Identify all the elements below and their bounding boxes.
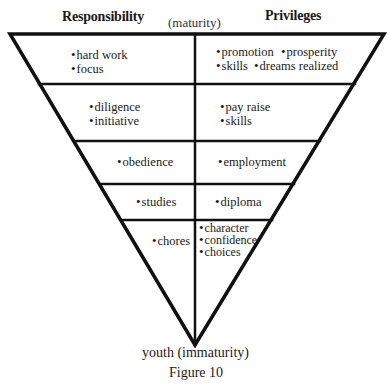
privileges-header: Privileges xyxy=(265,9,321,23)
privilege-item: pay raise xyxy=(220,100,270,114)
responsibility-item: obedience xyxy=(117,155,173,169)
responsibility-item: initiative xyxy=(89,114,139,128)
privilege-item: skills xyxy=(220,114,252,128)
responsibility-item: chores xyxy=(152,234,190,248)
privilege-item: promotion xyxy=(216,45,274,59)
figure-caption: Figure 10 xyxy=(169,366,223,380)
privilege-item: dreams realized xyxy=(254,59,338,73)
triangle-outline xyxy=(10,34,384,345)
privilege-item: skills xyxy=(216,59,248,73)
responsibility-header: Responsibility xyxy=(62,10,144,24)
responsibility-item: diligence xyxy=(89,100,140,114)
responsibility-item: studies xyxy=(136,195,176,209)
youth-label: youth (immaturity) xyxy=(142,346,249,360)
responsibility-item: hard work xyxy=(71,48,128,62)
responsibility-item: focus xyxy=(71,62,104,76)
privilege-item: diploma xyxy=(215,195,262,209)
privilege-item: employment xyxy=(218,155,286,169)
maturity-label: (maturity) xyxy=(168,16,221,30)
privilege-item: choices xyxy=(199,246,241,259)
privilege-item: prosperity xyxy=(281,45,337,59)
